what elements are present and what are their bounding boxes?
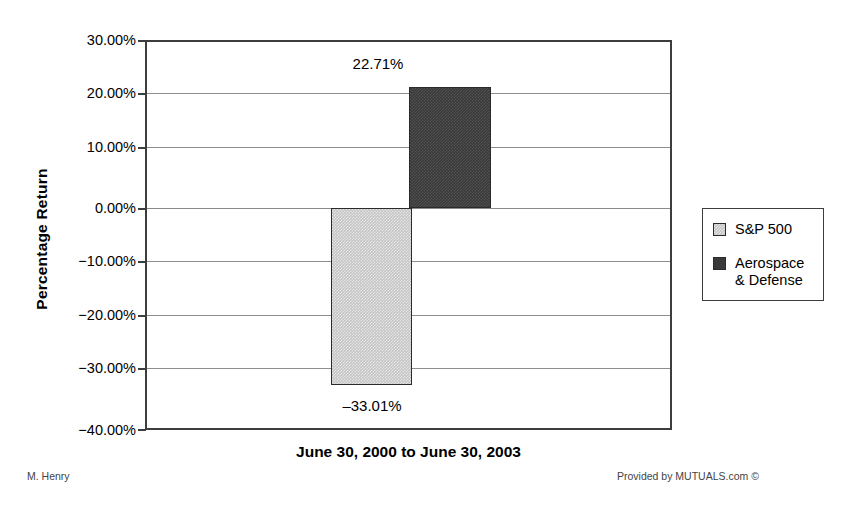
legend: S&P 500 Aerospace & Defense <box>702 208 824 301</box>
y-axis-tick-label: 10.00% <box>40 140 136 155</box>
legend-swatch-icon <box>713 257 726 270</box>
y-axis-tick-label: −30.00% <box>40 361 136 376</box>
legend-item-label: Aerospace & Defense <box>735 255 804 289</box>
y-axis-tick-label: 30.00% <box>40 33 136 48</box>
bar-aerospace-defense[interactable] <box>409 87 491 208</box>
y-axis-tick-label: −20.00% <box>40 308 136 323</box>
y-axis-tick-label: −10.00% <box>40 254 136 269</box>
bar-sp500[interactable] <box>331 208 412 385</box>
y-axis-tick-label: 0.00% <box>40 201 136 216</box>
legend-item-aerospace-defense[interactable]: Aerospace & Defense <box>713 255 804 289</box>
legend-item-label: S&P 500 <box>735 221 792 238</box>
chart-figure: Percentage Return 30.00% 20.00% 10.00% 0… <box>0 0 847 506</box>
legend-item-sp500[interactable]: S&P 500 <box>713 221 792 238</box>
data-label-aerospace-defense: 22.71% <box>318 56 438 71</box>
data-label-sp500: –33.01% <box>312 398 432 413</box>
x-axis-title: June 30, 2000 to June 30, 2003 <box>145 443 672 461</box>
y-axis-tick-label: −40.00% <box>40 423 136 438</box>
credit-provider: Provided by MUTUALS.com © <box>617 470 759 482</box>
plot-area <box>145 40 672 430</box>
legend-swatch-icon <box>713 223 726 236</box>
y-axis-tick-label: 20.00% <box>40 86 136 101</box>
credit-author: M. Henry <box>27 470 70 482</box>
